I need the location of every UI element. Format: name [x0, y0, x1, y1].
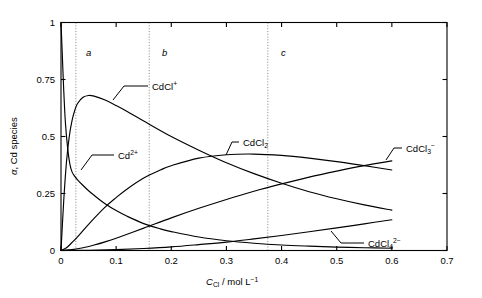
x-tick-label: 0.4 — [275, 255, 288, 266]
series-label-cdcl2-base: CdCl — [243, 137, 264, 148]
x-tick-label: 0.1 — [110, 255, 123, 266]
speciation-chart: 00.10.20.30.40.50.60.7 00.250.50.751 a b… — [0, 0, 482, 298]
y-tick-label: 0.25 — [37, 188, 56, 199]
marker-label-a: a — [86, 47, 91, 58]
y-tick-label: 0.5 — [42, 131, 55, 142]
x-tick-label: 0 — [58, 255, 63, 266]
series-label-cdcl1-base: CdCl — [152, 81, 173, 92]
series-label-cdcl4-base: CdCl — [368, 238, 389, 249]
x-tick-label: 0.5 — [330, 255, 343, 266]
series-label-cdcl3-sup: − — [431, 142, 435, 149]
x-axis-units: / mol L — [219, 276, 250, 287]
series-label-cdcl3-base: CdCl — [406, 143, 427, 154]
y-axis-title-text: , Cd species — [8, 117, 19, 170]
y-axis-title: α, Cd species — [8, 117, 19, 175]
marker-label-b: b — [162, 47, 167, 58]
series-label-cdcl3-sub: 3 — [427, 148, 431, 155]
x-tick-label: 0.3 — [220, 255, 233, 266]
svg-text:α, Cd species: α, Cd species — [8, 117, 19, 175]
series-label-cd2-base: Cd — [118, 150, 130, 161]
chart-svg: 00.10.20.30.40.50.60.7 00.250.50.751 a b… — [0, 0, 482, 298]
x-tick-label: 0.7 — [440, 255, 453, 266]
series-label-cd2-sup: 2+ — [130, 149, 138, 156]
series-label-cdcl2-sub: 2 — [264, 142, 268, 149]
series-label-cdcl1-sup: + — [173, 80, 177, 87]
x-tick-label: 0.6 — [385, 255, 398, 266]
x-tick-label: 0.2 — [165, 255, 178, 266]
svg-text:CdCl3−: CdCl3− — [406, 142, 435, 155]
marker-label-c: c — [281, 47, 286, 58]
y-tick-label: 0.75 — [37, 74, 56, 85]
y-tick-label: 0 — [50, 245, 55, 256]
x-axis-units-exponent: −1 — [250, 276, 258, 283]
series-label-cdcl4-sub: 4 — [389, 243, 393, 250]
series-label-cdcl4-sup: 2− — [393, 237, 401, 244]
y-tick-label: 1 — [50, 17, 55, 28]
